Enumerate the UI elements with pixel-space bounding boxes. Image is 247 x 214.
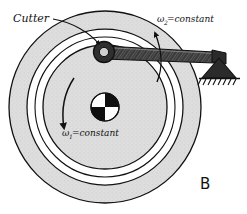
center-hub [91, 93, 119, 121]
cutter-bearing [94, 42, 115, 63]
ground-hatching [198, 79, 236, 85]
omega2-value: =constant [167, 14, 214, 24]
figure-label: B [200, 175, 210, 193]
mechanism-figure: Cutter ω 2 =constant ω 1 =constant B [0, 0, 247, 214]
cutter-label: Cutter [13, 12, 50, 25]
omega2-label-group: ω 2 =constant [157, 14, 214, 26]
bearing-bore [99, 47, 108, 56]
diagram-canvas: Cutter ω 2 =constant ω 1 =constant B [0, 0, 247, 214]
omega1-value: =constant [72, 128, 119, 138]
